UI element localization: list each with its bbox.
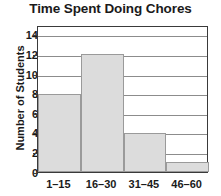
bar (81, 54, 124, 172)
chart-title: Time Spent Doing Chores (0, 1, 221, 17)
x-tick-label-3: 31–45 (123, 178, 166, 191)
histogram-chart: Time Spent Doing Chores Number of Studen… (0, 0, 221, 196)
bar (38, 94, 81, 172)
bar (166, 162, 209, 172)
x-tick-label-4: 46–60 (165, 178, 208, 191)
bar (124, 133, 167, 172)
x-tick-label-2: 16–30 (80, 178, 123, 191)
x-tick-label-1: 1–15 (37, 178, 80, 191)
gridline-14 (38, 36, 207, 37)
plot-area (37, 26, 208, 173)
